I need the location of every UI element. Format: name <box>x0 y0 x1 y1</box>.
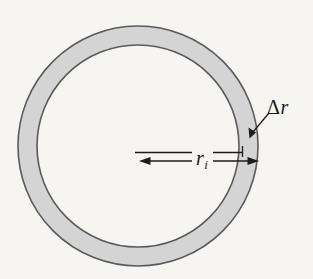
inner-circle-outline <box>37 45 239 247</box>
inner-radius-subscript: i <box>204 157 208 172</box>
inner-radius-label: ri <box>192 148 213 171</box>
annulus-diagram-svg <box>0 0 313 279</box>
radius-arrowhead-left <box>139 157 151 165</box>
annulus-ring <box>18 26 258 266</box>
figure-container: Δr ri <box>0 0 313 279</box>
delta-symbol: Δ <box>267 96 280 118</box>
ring-band-shape <box>18 26 258 266</box>
delta-r-variable: r <box>280 96 288 118</box>
delta-r-label: Δr <box>267 97 289 117</box>
inner-radius-variable: r <box>196 147 204 169</box>
